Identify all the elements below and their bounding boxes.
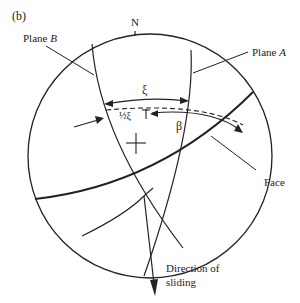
plane-a-text: Plane — [252, 46, 279, 58]
plane-a-label: Plane A — [252, 47, 286, 58]
xi-arc — [106, 99, 187, 104]
beta-arrow-left-icon — [150, 110, 158, 117]
plane-b-text: Plane — [23, 32, 50, 44]
xi-label: ξ — [142, 84, 147, 96]
lower-great-circle — [82, 196, 144, 236]
beta-arrow-right-icon — [234, 124, 243, 133]
plane-a-letter: A — [279, 46, 286, 58]
plane-b-great-circle — [92, 44, 183, 248]
direction-label-line1: Direction of — [166, 263, 219, 274]
half-xi-label: ½ξ — [119, 111, 131, 121]
direction-label-line2: sliding — [166, 277, 196, 288]
plane-b-letter: B — [50, 32, 57, 44]
face-label: Face — [264, 177, 285, 188]
north-label: N — [131, 17, 139, 28]
plane-a-leader — [193, 52, 248, 73]
primitive-circle — [28, 34, 272, 278]
lower-left-arc-ext — [144, 188, 153, 196]
beta-arc — [152, 112, 240, 130]
beta-label: β — [176, 120, 182, 132]
xi-arrow-right-icon — [180, 97, 189, 104]
face-leader — [211, 136, 256, 170]
plane-b-leader — [46, 46, 94, 75]
half-xi-arrowhead-icon — [95, 116, 104, 124]
half-xi-pointer — [74, 120, 98, 127]
sliding-arrowhead-icon — [150, 279, 158, 296]
panel-label: (b) — [12, 10, 26, 22]
xi-arrow-left-icon — [104, 100, 113, 107]
plane-b-label: Plane B — [23, 33, 57, 44]
face-great-circle — [35, 92, 253, 199]
plane-a-great-circle — [144, 50, 191, 276]
